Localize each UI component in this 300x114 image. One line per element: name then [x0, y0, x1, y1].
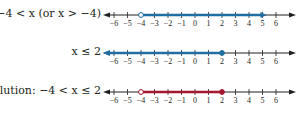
- tick-label: 1: [207, 96, 211, 105]
- tick-label: 0: [193, 57, 197, 66]
- tick-label: −2: [164, 57, 173, 66]
- tick-label: 4: [247, 57, 251, 66]
- arrow-left-icon: [103, 13, 110, 18]
- tick-label: 3: [234, 57, 238, 66]
- tick-label: 1: [207, 57, 211, 66]
- closed-endpoint: [220, 51, 225, 56]
- highlight-arrow-icon: [103, 50, 110, 56]
- tick-label: −5: [123, 96, 132, 105]
- tick-label: 5: [261, 19, 265, 28]
- tick-label: −3: [150, 96, 159, 105]
- number-lines: −6−5−4−3−2−10123456−6−5−4−3−2−10123456−6…: [0, 0, 300, 114]
- tick-label: 6: [274, 57, 278, 66]
- tick-label: 4: [247, 96, 251, 105]
- tick-label: −6: [110, 96, 119, 105]
- tick-label: 3: [234, 19, 238, 28]
- tick-label: 2: [220, 96, 224, 105]
- highlight-arrow-icon: [261, 12, 267, 18]
- tick-label: −4: [137, 96, 146, 105]
- tick-label: 6: [274, 96, 278, 105]
- tick-label: 5: [261, 96, 265, 105]
- arrow-left-icon: [103, 90, 110, 95]
- tick-label: 2: [220, 19, 224, 28]
- tick-label: 6: [274, 19, 278, 28]
- tick-label: 3: [234, 96, 238, 105]
- arrow-right-icon: [289, 13, 296, 18]
- tick-label: −3: [150, 57, 159, 66]
- tick-label: −1: [177, 96, 186, 105]
- open-endpoint: [139, 90, 144, 95]
- tick-label: −1: [177, 57, 186, 66]
- arrow-right-icon: [289, 51, 296, 56]
- tick-label: −4: [137, 19, 146, 28]
- tick-label: 0: [193, 19, 197, 28]
- tick-label: −6: [110, 19, 119, 28]
- closed-endpoint: [220, 90, 225, 95]
- open-endpoint: [139, 13, 144, 18]
- tick-label: 0: [193, 96, 197, 105]
- tick-label: −2: [164, 19, 173, 28]
- tick-label: 5: [261, 57, 265, 66]
- tick-label: −2: [164, 96, 173, 105]
- tick-label: −3: [150, 19, 159, 28]
- tick-label: −6: [110, 57, 119, 66]
- tick-label: −1: [177, 19, 186, 28]
- tick-label: −4: [137, 57, 146, 66]
- tick-label: 4: [247, 19, 251, 28]
- tick-label: −5: [123, 57, 132, 66]
- tick-label: −5: [123, 19, 132, 28]
- tick-label: 1: [207, 19, 211, 28]
- tick-label: 2: [220, 57, 224, 66]
- arrow-right-icon: [289, 90, 296, 95]
